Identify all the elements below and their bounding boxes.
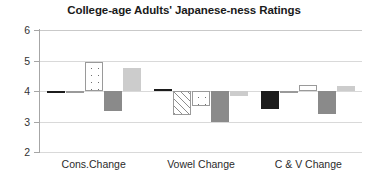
x-axis-label-2: C & V Change [275,158,342,170]
x-axis-label-0: Cons.Change [62,158,126,170]
y-axis-label-5: 5 [0,55,30,67]
bar-1-0 [154,89,172,91]
bar-0-2 [85,62,103,91]
bar-1-2 [192,91,210,106]
bar-group-2 [255,30,362,152]
bar-0-0 [47,91,65,93]
bar-group-1 [147,30,254,152]
bar-group-0 [40,30,147,152]
bar-2-2 [299,85,317,91]
bar-1-3 [211,91,229,122]
bar-2-4 [337,86,355,91]
gridline-2 [40,152,362,153]
y-axis-label-2: 2 [0,146,30,158]
plot-area [40,30,362,152]
bar-0-3 [104,91,122,111]
chart-container: College-age Adults' Japanese-ness Rating… [0,0,368,185]
bar-2-3 [318,91,336,114]
bar-1-4 [230,91,248,96]
bar-0-1 [66,91,84,93]
y-axis-label-3: 3 [0,116,30,128]
y-axis-label-4: 4 [0,85,30,97]
bar-2-0 [261,91,279,109]
bar-2-1 [280,91,298,93]
x-axis-label-1: Vowel Change [167,158,235,170]
y-axis-label-6: 6 [0,24,30,36]
bar-1-1 [173,91,191,115]
chart-title: College-age Adults' Japanese-ness Rating… [0,4,368,16]
bar-0-4 [123,68,141,91]
